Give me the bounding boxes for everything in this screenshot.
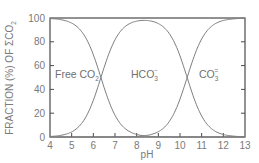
x-tick-label: 13 bbox=[239, 140, 251, 151]
y-tick-label: 20 bbox=[34, 108, 46, 119]
series-label-co3: CO3= bbox=[199, 67, 219, 82]
x-tick-label: 7 bbox=[112, 140, 118, 151]
x-tick-label: 4 bbox=[47, 140, 53, 151]
y-tick-label: 40 bbox=[34, 84, 46, 95]
y-axis-title: FRACTION (%) OF ΣCO2 bbox=[4, 21, 17, 135]
series-label-free-co2: Free CO2 bbox=[55, 68, 99, 82]
x-axis-title: pH bbox=[141, 149, 154, 160]
x-tick-label: 10 bbox=[174, 140, 186, 151]
y-tick-label: 100 bbox=[28, 13, 45, 24]
x-tick-label: 8 bbox=[134, 140, 140, 151]
x-tick-label: 11 bbox=[196, 140, 207, 151]
x-tick-label: 6 bbox=[91, 140, 97, 151]
x-tick-label: 5 bbox=[69, 140, 75, 151]
y-tick-label: 0 bbox=[39, 132, 45, 143]
x-tick-label: 9 bbox=[156, 140, 162, 151]
x-tick-label: 12 bbox=[218, 140, 230, 151]
y-tick-label: 60 bbox=[34, 60, 46, 71]
y-tick-label: 80 bbox=[34, 36, 46, 47]
carbonate-speciation-chart: 020406080100 45678910111213 FRACTION (%)… bbox=[0, 0, 259, 163]
series-label-hco3: HCO3− bbox=[131, 67, 158, 82]
